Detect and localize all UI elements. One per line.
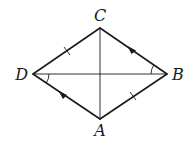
angle-arc-B [151,65,154,74]
angle-arc-D [46,74,49,83]
vertex-label-D: D [14,65,28,84]
vertex-label-B: B [171,65,184,84]
arrow-mark-AD [59,91,68,99]
tick-mark-DC [64,47,70,55]
vertex-label-C: C [94,6,106,25]
side-AD [33,74,100,119]
vertex-label-A: A [92,121,106,140]
rhombus-diagram: C B A D [0,0,190,144]
